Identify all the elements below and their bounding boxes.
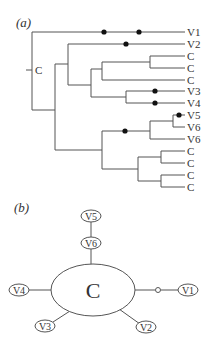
- mutation-dot: [123, 41, 128, 46]
- node-v5-label: V5: [85, 211, 97, 222]
- haplotype-network: C V5 V6 V4 V1 V3 V2: [9, 210, 198, 333]
- leaf-label: C: [187, 145, 194, 157]
- mutation-dot: [176, 112, 181, 117]
- leaf-label: V4: [187, 97, 201, 109]
- figure: (a): [0, 0, 213, 350]
- mutation-dot: [136, 29, 141, 34]
- leaf-label: C: [187, 50, 194, 62]
- mutation-dot: [152, 88, 157, 93]
- leaf-label: C: [187, 157, 194, 169]
- leaf-label: V6: [187, 121, 201, 133]
- leaf-label: V5: [187, 109, 201, 121]
- mutation-dot: [152, 100, 157, 105]
- leaf-label: V6: [187, 133, 201, 145]
- intermediate-node: [156, 288, 161, 293]
- node-v1-label: V1: [182, 285, 194, 296]
- leaf-label: C: [187, 62, 194, 74]
- root-label: C: [35, 64, 42, 76]
- node-v2-label: V2: [140, 322, 152, 333]
- panel-a-label: (a): [16, 15, 31, 30]
- node-v4-label: V4: [13, 285, 25, 296]
- panel-b-label: (b): [14, 200, 29, 215]
- leaf-label: V2: [187, 38, 200, 50]
- mutation-dot: [101, 29, 106, 34]
- node-v3-label: V3: [39, 321, 51, 332]
- leaf-label: V1: [187, 26, 200, 38]
- mutation-dot: [122, 128, 127, 133]
- node-v6-label: V6: [85, 238, 97, 249]
- central-node-label: C: [86, 278, 101, 303]
- leaf-label: V3: [187, 85, 201, 97]
- leaf-label: C: [187, 181, 194, 193]
- leaf-label: C: [187, 169, 194, 181]
- phylogenetic-tree: [26, 29, 185, 187]
- leaf-labels: V1 V2 C C C V3 V4 V5 V6 V6 C C C C: [187, 26, 201, 193]
